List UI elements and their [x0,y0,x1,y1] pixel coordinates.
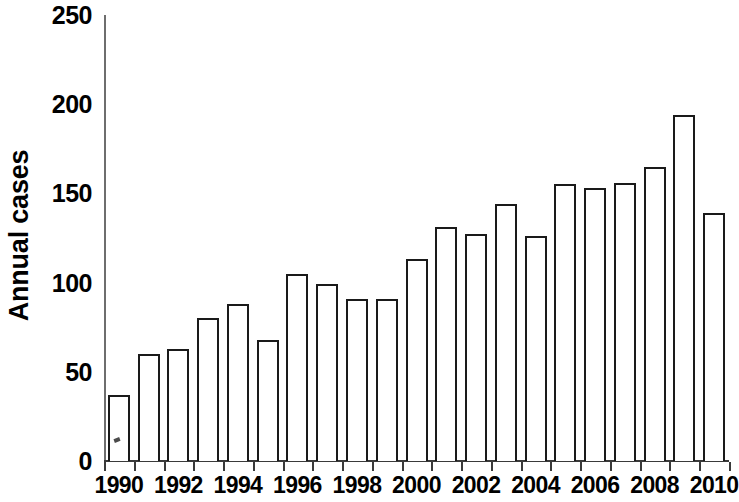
bar [108,395,130,461]
x-axis-tick-label: 1994 [214,472,263,499]
x-axis-tick [372,462,374,471]
x-axis-tick [699,462,701,471]
bar [495,204,517,461]
x-axis-tick [669,462,671,471]
x-axis-tick-label: 2006 [571,472,620,499]
x-axis-tick [223,462,225,471]
bar [614,183,636,461]
y-axis-tick-label: 50 [65,357,92,386]
y-axis-tick-label: 100 [52,268,92,297]
bar [376,299,398,461]
bar [227,304,249,461]
x-axis-tick-label: 1996 [273,472,322,499]
x-axis-tick [104,462,106,471]
bar [167,349,189,461]
x-axis-tick [431,462,433,471]
bar [346,299,368,461]
bar [584,188,606,461]
x-axis-tick [164,462,166,471]
bar [197,318,219,461]
x-axis-ticks [104,462,729,472]
bar [673,115,695,461]
bar [286,274,308,461]
x-axis-tick [402,462,404,471]
y-axis-tick-label: 150 [52,179,92,208]
y-axis-tick-label: 250 [52,1,92,30]
x-axis-tick [610,462,612,471]
x-axis-tick-label: 2010 [690,472,739,499]
bar [406,259,428,461]
x-axis-tick [283,462,285,471]
x-axis-tick [550,462,552,471]
bar [554,184,576,461]
x-axis-tick-label: 1998 [333,472,382,499]
y-axis-tick-labels: 250200150100500 [40,0,98,502]
bar [465,234,487,461]
y-axis-title-text: Annual cases [5,149,36,321]
x-axis-tick [521,462,523,471]
bar [257,340,279,461]
y-axis-title: Annual cases [0,0,40,470]
bar [644,167,666,461]
x-axis-tick-label: 2002 [452,472,501,499]
x-axis-tick-label: 2008 [630,472,679,499]
x-axis-tick-label: 1990 [94,472,143,499]
y-axis-tick-label: 200 [52,90,92,119]
x-axis-tick [461,462,463,471]
plot-area [104,15,729,461]
x-axis-tick [253,462,255,471]
x-axis-tick [640,462,642,471]
x-axis-tick-label: 1992 [154,472,203,499]
x-axis-tick [312,462,314,471]
x-axis-tick [729,462,731,471]
x-axis-tick-labels: 1990199219941996199820002002200420062008… [0,472,739,502]
bar [435,227,457,461]
bar [316,284,338,461]
x-axis-tick-label: 2000 [392,472,441,499]
x-axis-tick [491,462,493,471]
x-axis-tick-label: 2004 [511,472,560,499]
bar-chart: Annual cases 250200150100500 19901992199… [0,0,739,502]
bar [703,213,725,461]
bar [138,354,160,461]
x-axis-tick [580,462,582,471]
bar [525,236,547,461]
x-axis-tick [342,462,344,471]
x-axis-tick [134,462,136,471]
x-axis-tick [193,462,195,471]
